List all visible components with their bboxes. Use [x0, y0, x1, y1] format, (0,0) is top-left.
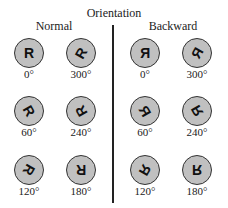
mirrored-letter-r-icon: R — [188, 103, 205, 119]
letter-disc: R — [182, 38, 212, 68]
backward-item-60: R 60° — [126, 96, 166, 146]
normal-item-60: R 60° — [10, 96, 50, 146]
backward-item-180: R 180° — [178, 155, 218, 205]
backward-item-0: R 0° — [126, 38, 166, 88]
letter-disc: R — [14, 38, 44, 68]
letter-disc: R — [66, 96, 96, 126]
letter-r-icon: R — [72, 45, 89, 61]
angle-label: 180° — [168, 185, 226, 197]
letter-disc: R — [130, 38, 160, 68]
normal-item-120: R 120° — [10, 155, 50, 205]
angle-label: 60° — [0, 126, 58, 138]
backward-item-120: R 120° — [126, 155, 166, 205]
normal-item-300: R 300° — [62, 38, 102, 88]
group-divider — [112, 25, 114, 203]
letter-r-icon: R — [24, 46, 34, 60]
normal-group-label: Normal — [4, 19, 104, 34]
letter-r-icon: R — [20, 162, 37, 178]
angle-label: 60° — [116, 126, 174, 138]
angle-label: 120° — [116, 185, 174, 197]
angle-label: 240° — [52, 126, 110, 138]
angle-label: 120° — [0, 185, 58, 197]
letter-disc: R — [130, 155, 160, 185]
mirrored-letter-r-icon: R — [140, 46, 150, 60]
mirrored-letter-r-icon: R — [136, 162, 153, 178]
letter-r-icon: R — [20, 103, 37, 119]
angle-label: 300° — [168, 68, 226, 80]
letter-disc: R — [182, 96, 212, 126]
backward-group-label: Backward — [123, 19, 223, 34]
angle-label: 0° — [0, 68, 58, 80]
normal-item-180: R 180° — [62, 155, 102, 205]
letter-disc: R — [66, 155, 96, 185]
backward-item-300: R 300° — [178, 38, 218, 88]
mirrored-letter-r-icon: R — [136, 103, 153, 119]
normal-item-240: R 240° — [62, 96, 102, 146]
letter-disc: R — [14, 155, 44, 185]
letter-disc: R — [66, 38, 96, 68]
letter-disc: R — [130, 96, 160, 126]
letter-r-icon: R — [72, 103, 89, 119]
mirrored-letter-r-icon: R — [192, 163, 202, 177]
letter-r-icon: R — [76, 163, 86, 177]
backward-item-240: R 240° — [178, 96, 218, 146]
mirrored-letter-r-icon: R — [188, 45, 205, 61]
angle-label: 0° — [116, 68, 174, 80]
angle-label: 300° — [52, 68, 110, 80]
angle-label: 180° — [52, 185, 110, 197]
normal-item-0: R 0° — [10, 38, 50, 88]
letter-disc: R — [182, 155, 212, 185]
angle-label: 240° — [168, 126, 226, 138]
letter-disc: R — [14, 96, 44, 126]
